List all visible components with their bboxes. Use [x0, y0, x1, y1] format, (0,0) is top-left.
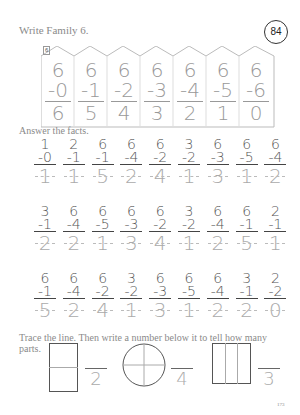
subtraction-problem: 1-01 — [32, 138, 58, 187]
answer-field[interactable]: 2 — [234, 299, 260, 321]
subtrahend: -3 — [147, 285, 173, 298]
answer-blank-1[interactable]: 2 — [85, 368, 107, 389]
subtraction-problem: 6-42 — [205, 272, 231, 321]
subtraction-problem: 3-12 — [234, 272, 260, 321]
subtraction-problem: 6-24 — [147, 205, 173, 254]
subtraction-problem: 6-33 — [147, 272, 173, 321]
family-fact-column: 6-60 — [240, 60, 272, 123]
subtrahend: -4 — [118, 151, 144, 164]
page-number: 173 — [277, 402, 285, 407]
subtraction-problem: 6-42 — [262, 138, 288, 187]
answer-field[interactable]: 2 — [118, 165, 144, 187]
difference[interactable]: 3 — [141, 103, 173, 123]
family-fact-column: 6-33 — [141, 60, 173, 123]
minuend: 6 — [75, 60, 107, 80]
difference[interactable]: 1 — [207, 103, 239, 123]
subtraction-problem: 2-11 — [262, 205, 288, 254]
difference[interactable]: 0 — [240, 103, 272, 123]
subtrahend: -0 — [32, 151, 58, 164]
minuend: 6 — [141, 60, 173, 80]
family-fact-column: 6-24 — [108, 60, 140, 123]
subtraction-problem: 6-42 — [61, 272, 87, 321]
subtrahend: -4 — [61, 218, 87, 231]
subtrahend: -4 — [205, 285, 231, 298]
difference[interactable]: 6 — [42, 103, 74, 123]
answer-field[interactable]: 2 — [61, 232, 87, 254]
subtraction-problem: 2-11 — [61, 138, 87, 187]
subtraction-problem: 6-33 — [205, 138, 231, 187]
answer-field[interactable]: 3 — [147, 299, 173, 321]
subtrahend: -1 — [262, 218, 288, 231]
answer-field[interactable]: 4 — [90, 299, 116, 321]
answer-field[interactable]: 1 — [118, 299, 144, 321]
subtrahend: -2 — [262, 285, 288, 298]
answer-field[interactable]: 1 — [32, 165, 58, 187]
subtrahend: -0 — [42, 80, 74, 100]
answer-field[interactable]: 1 — [176, 299, 202, 321]
subtrahend: -4 — [262, 151, 288, 164]
subtraction-problem: 3-12 — [32, 205, 58, 254]
answer-field[interactable]: 1 — [262, 232, 288, 254]
family-fact-column: 6-15 — [75, 60, 107, 123]
subtrahend: -2 — [147, 218, 173, 231]
answer-field[interactable]: 2 — [32, 232, 58, 254]
answer-field[interactable]: 1 — [176, 232, 202, 254]
subtrahend: -4 — [61, 285, 87, 298]
subtrahend: -5 — [234, 151, 260, 164]
circle-quarters-shape[interactable] — [122, 343, 166, 387]
difference[interactable]: 2 — [174, 103, 206, 123]
answer-field[interactable]: 1 — [61, 165, 87, 187]
family-fact-column: 6-06 — [42, 60, 74, 123]
answer-field[interactable]: 1 — [90, 232, 116, 254]
rectangle-halves-shape[interactable] — [49, 343, 79, 393]
answer-field[interactable]: 0 — [262, 299, 288, 321]
rectangle-thirds-shape[interactable] — [212, 343, 252, 385]
fact-family-house: 6-066-156-246-336-426-516-60 — [41, 46, 275, 128]
subtrahend: -4 — [205, 218, 231, 231]
family-fact-column: 6-51 — [207, 60, 239, 123]
answer-field[interactable]: 3 — [205, 165, 231, 187]
answer-field[interactable]: 2 — [205, 299, 231, 321]
answer-field[interactable]: 2 — [61, 299, 87, 321]
subtraction-problem: 3-21 — [176, 138, 202, 187]
section-title-answer-facts: Answer the facts. — [19, 125, 89, 136]
answer-field[interactable]: 4 — [147, 232, 173, 254]
answer-field[interactable]: 2 — [262, 165, 288, 187]
subtrahend: -2 — [147, 151, 173, 164]
subtrahend: -1 — [90, 151, 116, 164]
subtrahend: -5 — [176, 285, 202, 298]
subtrahend: -5 — [207, 80, 239, 100]
answer-blank-3[interactable]: 3 — [258, 368, 280, 389]
answer-field[interactable]: 1 — [234, 165, 260, 187]
subtrahend: -3 — [141, 80, 173, 100]
subtraction-problem: 6-42 — [118, 138, 144, 187]
subtraction-problem: 6-15 — [90, 138, 116, 187]
answer-field[interactable]: 3 — [118, 232, 144, 254]
answer-field[interactable]: 2 — [205, 232, 231, 254]
subtrahend: -2 — [176, 151, 202, 164]
minuend: 6 — [207, 60, 239, 80]
subtrahend: -1 — [234, 285, 260, 298]
answer-blank-2[interactable]: 4 — [171, 368, 193, 389]
minuend: 6 — [42, 60, 74, 80]
subtrahend: -1 — [32, 218, 58, 231]
subtrahend: -2 — [108, 80, 140, 100]
subtraction-problem: 6-42 — [61, 205, 87, 254]
answer-field[interactable]: 4 — [147, 165, 173, 187]
answer-field[interactable]: 1 — [176, 165, 202, 187]
answer-field[interactable]: 5 — [234, 232, 260, 254]
difference[interactable]: 4 — [108, 103, 140, 123]
difference[interactable]: 5 — [75, 103, 107, 123]
answer-field[interactable]: 5 — [90, 165, 116, 187]
answer-field[interactable]: 5 — [32, 299, 58, 321]
family-tag: 6 — [43, 46, 50, 55]
subtraction-problem: 6-51 — [234, 138, 260, 187]
subtrahend: -2 — [118, 285, 144, 298]
subtrahend: -1 — [61, 151, 87, 164]
minuend: 6 — [240, 60, 272, 80]
minuend: 6 — [174, 60, 206, 80]
subtraction-problem: 6-24 — [90, 272, 116, 321]
subtraction-problem: 6-33 — [118, 205, 144, 254]
subtrahend: -5 — [90, 218, 116, 231]
subtrahend: -1 — [32, 285, 58, 298]
